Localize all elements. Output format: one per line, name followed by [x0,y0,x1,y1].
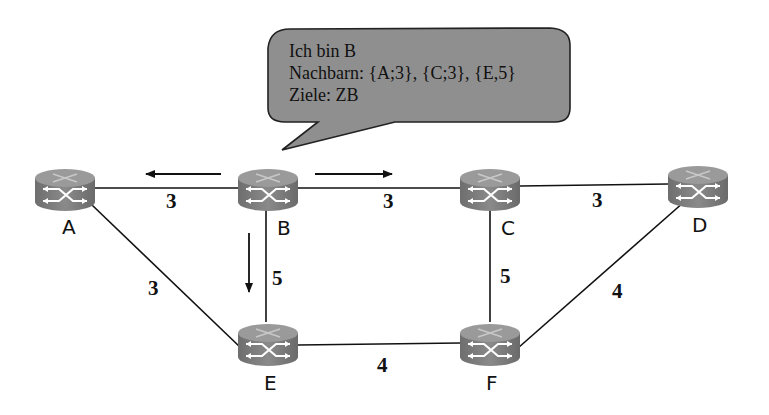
edge-weight-A-E: 3 [148,278,159,299]
edge-weight-E-F: 4 [377,355,388,376]
router-icon-D [668,166,728,208]
edge-weight-A-B: 3 [166,191,177,212]
edge-weight-C-D: 3 [592,190,603,211]
edge-weight-B-C: 3 [383,191,394,212]
edge-E-F [298,343,460,345]
node-label-F: F [486,373,498,393]
edge-weight-B-E: 5 [272,268,283,289]
node-label-B: B [277,218,291,238]
edge-C-D [520,184,668,186]
node-label-E: E [264,373,277,393]
router-icon-F [460,324,520,366]
edge-weight-C-F: 5 [500,266,511,287]
bubble-line-3: Ziele: ZB [289,84,358,106]
routers [35,166,728,366]
router-icon-A [35,169,95,211]
edge-D-F [518,202,684,348]
node-label-C: C [501,218,515,238]
node-label-A: A [62,217,76,237]
edge-weight-D-F: 4 [612,281,623,302]
router-icon-C [460,169,520,211]
node-label-D: D [692,215,707,235]
bubble-line-2: Nachbarn: {A;3}, {C;3}, {E,5} [289,62,516,84]
bubble-line-1: Ich bin B [289,40,356,62]
router-icon-E [238,324,298,366]
network-diagram: Ich bin B Nachbarn: {A;3}, {C;3}, {E,5} … [0,0,769,415]
router-icon-B [238,169,298,211]
edge-A-E [92,205,241,348]
